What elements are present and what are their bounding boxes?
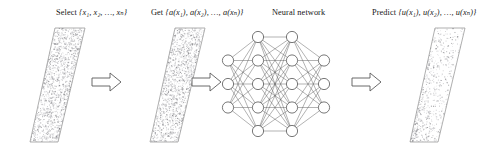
stage-label-predict: Predict {u(x₁), u(x₂), …, u(xₙ)} xyxy=(372,9,476,17)
nn-node-hidden-layer-1-3 xyxy=(252,78,263,89)
nn-node-hidden-layer-1-4 xyxy=(252,102,263,113)
arrow-3-icon xyxy=(352,73,381,91)
nn-node-input-layer-2 xyxy=(222,78,233,89)
nn-node-input-layer-3 xyxy=(222,102,233,113)
arrow-2-icon xyxy=(192,73,221,91)
parallelogram-predict xyxy=(406,26,471,147)
stage-label-predict-verb: Predict xyxy=(372,8,396,17)
diagram-graphics xyxy=(0,0,480,157)
nn-node-output-layer-1 xyxy=(318,55,329,66)
stage-label-get: Get {a(x₁), a(x₂), …, a(xₙ)} xyxy=(151,9,244,17)
nn-node-hidden-layer-1-1 xyxy=(252,31,263,42)
nn-node-hidden-layer-2-5 xyxy=(286,125,297,136)
stage-label-select-set: {x₁, x₂, …, xₙ} xyxy=(79,8,127,17)
nn-node-hidden-layer-1-5 xyxy=(252,125,263,136)
nn-node-input-layer-1 xyxy=(222,55,233,66)
nn-node-hidden-layer-2-1 xyxy=(286,31,297,42)
nn-node-hidden-layer-2-2 xyxy=(286,55,297,66)
neural-network-graph xyxy=(222,31,329,136)
nn-node-hidden-layer-1-2 xyxy=(252,55,263,66)
stage-label-get-verb: Get xyxy=(151,8,163,17)
arrow-1-icon xyxy=(92,73,121,91)
stage-label-select-verb: Select xyxy=(56,8,77,17)
nn-node-output-layer-3 xyxy=(318,102,329,113)
diagram-canvas: Select {x₁, x₂, …, xₙ} Get {a(x₁), a(x₂)… xyxy=(0,0,480,157)
nn-node-hidden-layer-2-3 xyxy=(286,78,297,89)
parallelogram-get xyxy=(146,26,211,147)
nn-node-output-layer-2 xyxy=(318,78,329,89)
stage-label-select: Select {x₁, x₂, …, xₙ} xyxy=(56,9,127,17)
parallelogram-select xyxy=(26,26,91,147)
stage-label-get-set: {a(x₁), a(x₂), …, a(xₙ)} xyxy=(165,8,243,17)
stage-label-network-verb: Neural network xyxy=(272,8,325,17)
nn-node-hidden-layer-2-4 xyxy=(286,102,297,113)
stage-label-network: Neural network xyxy=(272,9,325,17)
stage-label-predict-set: {u(x₁), u(x₂), …, u(xₙ)} xyxy=(398,8,476,17)
